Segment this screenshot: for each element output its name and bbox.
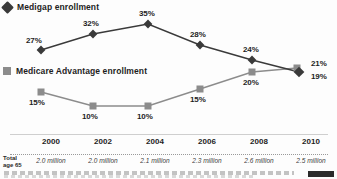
- data-label-medigap-2008: 24%: [243, 45, 259, 54]
- data-label-ma-2008: 20%: [243, 78, 259, 87]
- line-medicare-advantage: [41, 68, 297, 106]
- series-lines: [0, 0, 337, 133]
- table-row: 2.0 million 2.0 million 2.1 million 2.3 …: [0, 157, 337, 164]
- table-cell-2010: 2.5 million: [285, 157, 337, 164]
- chart-figure: Medigap enrollment Medicare Advantage en…: [0, 0, 337, 179]
- table-cell-2000: 2.0 million: [25, 157, 77, 164]
- data-label-ma-2004: 10%: [137, 112, 153, 121]
- data-label-ma-2010: 21%: [311, 59, 327, 68]
- markers-medigap: [37, 20, 305, 78]
- footnote-block-mark: [308, 171, 334, 177]
- line-medigap: [41, 24, 299, 72]
- column-header-2004: 2004: [129, 137, 181, 146]
- table-cell-2008: 2.6 million: [233, 157, 285, 164]
- column-header-2006: 2006: [181, 137, 233, 146]
- table-top-rule: [10, 134, 328, 135]
- data-label-medigap-2002: 32%: [83, 19, 99, 28]
- footnote-text-smear-line2: [4, 175, 254, 178]
- table-divider-rule: [10, 154, 328, 155]
- data-label-ma-2000: 15%: [29, 98, 45, 107]
- data-label-ma-2002: 10%: [82, 112, 98, 121]
- column-header-2010: 2010: [285, 137, 337, 146]
- data-label-medigap-2004: 35%: [139, 9, 155, 18]
- column-header-2002: 2002: [77, 137, 129, 146]
- table-header-row: 2000 2002 2004 2006 2008 2010: [0, 137, 337, 146]
- table-row-spacer: [0, 157, 25, 164]
- table-cell-2006: 2.3 million: [181, 157, 233, 164]
- footnote-strip: [0, 170, 337, 179]
- column-header-2008: 2008: [233, 137, 285, 146]
- data-label-ma-2006: 15%: [190, 95, 206, 104]
- data-label-medigap-2000: 27%: [26, 36, 42, 45]
- data-label-medigap-2006: 28%: [190, 30, 206, 39]
- data-label-medigap-2010: 19%: [311, 72, 327, 81]
- plot-area: 27% 32% 35% 28% 24% 19% 15% 10% 10% 15% …: [0, 0, 337, 133]
- table-cell-2004: 2.1 million: [129, 157, 181, 164]
- table-cell-2002: 2.0 million: [77, 157, 129, 164]
- column-header-2000: 2000: [25, 137, 77, 146]
- table-header-spacer: [0, 137, 25, 146]
